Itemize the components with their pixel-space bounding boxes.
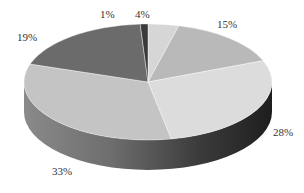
pie-chart [0, 0, 304, 193]
label-19pct: 19% [17, 31, 37, 43]
label-15pct: 15% [217, 18, 237, 30]
label-28pct: 28% [273, 126, 293, 138]
label-33pct: 33% [52, 165, 72, 177]
label-4pct: 4% [135, 8, 150, 20]
label-1pct: 1% [100, 8, 115, 20]
pie-top [24, 24, 272, 140]
